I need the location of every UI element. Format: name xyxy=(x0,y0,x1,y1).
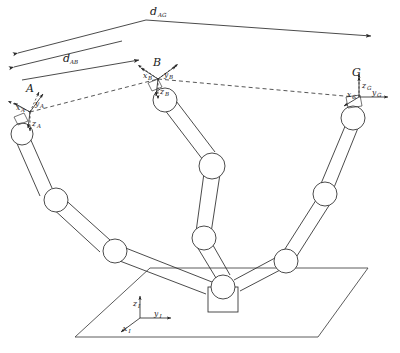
frame-label-G: G xyxy=(352,66,361,79)
frame-label-A: A xyxy=(25,82,34,95)
axis-label-zB-sub: B xyxy=(164,91,169,97)
axis-label-xG-sub: G xyxy=(352,94,357,100)
figure-canvas: d AG d AB z I y I x I xyxy=(0,0,400,353)
arm-middle xyxy=(148,79,230,278)
axis-label-zB: z xyxy=(159,87,164,96)
axis-label-xI-sub: I xyxy=(128,328,132,334)
axis-label-yA-sub: A xyxy=(39,103,44,109)
manipulator-diagram: d AG d AB z I y I x I xyxy=(0,0,400,353)
axis-label-zG: z xyxy=(361,81,366,90)
dim-label-dAG-sub: AG xyxy=(157,12,167,18)
dim-label-dAB-base: d xyxy=(63,52,70,65)
axis-label-zA: z xyxy=(31,119,36,128)
dimension-d-AB: d AB xyxy=(14,41,139,80)
axis-label-yG-sub: G xyxy=(377,92,382,98)
axis-label-zI: z xyxy=(132,299,137,308)
frame-inertial: z I y I x I xyxy=(121,296,171,334)
axis-label-yB-sub: B xyxy=(168,74,173,80)
arm-right xyxy=(234,95,365,291)
axis-label-zA-sub: A xyxy=(36,123,41,129)
frame-G: G z G y G x G xyxy=(344,66,388,106)
arm-left xyxy=(11,113,212,294)
frame-connection-lines xyxy=(30,79,355,112)
robot-base xyxy=(208,275,238,312)
axis-label-xA-sub: A xyxy=(20,107,25,113)
axis-label-xI: x xyxy=(123,324,128,333)
axis-label-yI: y xyxy=(153,309,159,318)
dim-label-dAG-base: d xyxy=(150,5,157,18)
dimension-d-AG: d AG xyxy=(18,5,371,53)
frame-label-B: B xyxy=(152,56,161,69)
dim-label-dAB-sub: AB xyxy=(69,59,78,65)
axis-label-xB-sub: B xyxy=(147,75,152,81)
